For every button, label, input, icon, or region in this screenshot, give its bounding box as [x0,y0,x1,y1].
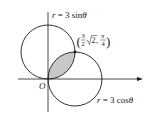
origin-label: O [39,81,46,91]
svg-text:4: 4 [102,40,106,47]
svg-text:3: 3 [82,32,85,39]
svg-text:2: 2 [92,36,96,45]
intersection-point-label: ( 3 2 2 , π 4 ) [77,32,111,49]
x-axis-arrow-icon [137,77,143,81]
intersection-dot [74,51,77,54]
svg-text:π: π [101,32,105,39]
svg-text:2: 2 [82,40,85,47]
label-r-3-cos-theta: r = 3 cosθ [97,95,134,105]
svg-text:(: ( [77,34,81,49]
svg-text:,: , [96,36,98,45]
label-r-3-sin-theta: r = 3 sinθ [52,10,87,20]
polar-diagram: r = 3 sinθ r = 3 cosθ O ( 3 2 2 , π 4 ) [0,0,150,123]
svg-text:): ) [106,34,110,49]
